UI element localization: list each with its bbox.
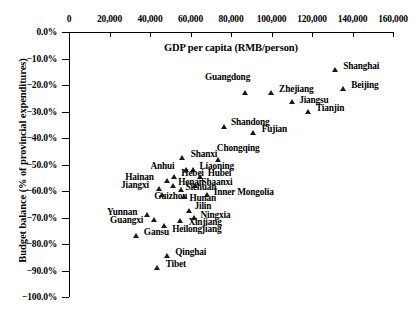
data-point xyxy=(151,217,157,222)
y-tick-label: −50.0% xyxy=(0,160,57,170)
x-axis-title: GDP per capita (RMB/person) xyxy=(69,42,393,53)
y-tick-label: −90.0% xyxy=(0,266,57,276)
y-tick-label: −100.0% xyxy=(0,292,57,302)
y-axis-line xyxy=(69,32,70,297)
scatter-chart: 020,00040,00060,00080,000100,000120,0001… xyxy=(0,0,417,319)
data-point xyxy=(170,183,176,188)
y-tick xyxy=(62,165,69,166)
data-point xyxy=(268,90,274,95)
data-point-label: Chongqing xyxy=(217,144,260,153)
data-point-label: Shanghai xyxy=(343,62,379,71)
data-point-label: Tibet xyxy=(166,260,186,269)
data-point xyxy=(181,194,187,199)
x-tick-label: 80,000 xyxy=(219,14,244,24)
x-tick xyxy=(353,32,354,37)
x-tick-label: 140,000 xyxy=(338,14,367,24)
y-tick-label: −20.0% xyxy=(0,80,57,90)
x-tick xyxy=(191,32,192,37)
y-tick xyxy=(62,85,69,86)
y-tick xyxy=(62,112,69,113)
data-point xyxy=(332,67,338,72)
y-tick xyxy=(62,191,69,192)
x-tick-label: 160,000 xyxy=(378,14,407,24)
data-point xyxy=(177,218,183,223)
data-point-label: Shanxi xyxy=(191,150,218,159)
y-tick-label: −80.0% xyxy=(0,239,57,249)
x-tick-label: 60,000 xyxy=(178,14,203,24)
x-tick xyxy=(231,32,232,37)
data-point xyxy=(186,208,192,213)
data-point-label: Guangdong xyxy=(205,73,250,82)
x-tick-label: 100,000 xyxy=(257,14,286,24)
y-axis-title: Budget balance (% of provincial expendit… xyxy=(17,36,28,286)
data-point-label: Qinghai xyxy=(175,248,206,257)
x-tick xyxy=(110,32,111,37)
data-point-label: Gansu xyxy=(144,228,169,237)
data-point xyxy=(179,155,185,160)
data-point xyxy=(289,99,295,104)
x-tick-label: 20,000 xyxy=(97,14,122,24)
data-point xyxy=(250,130,256,135)
data-point-label: Inner Mongolia xyxy=(214,188,274,197)
y-tick xyxy=(62,138,69,139)
x-tick xyxy=(69,32,70,37)
x-tick xyxy=(272,32,273,37)
y-tick xyxy=(62,32,69,33)
data-point xyxy=(156,186,162,191)
data-point-label: Heilongjiang xyxy=(172,225,221,234)
data-point xyxy=(242,90,248,95)
data-point-label: Sichuan xyxy=(185,183,216,192)
data-point-label: Tianjin xyxy=(316,104,344,113)
data-point xyxy=(144,212,150,217)
y-tick-label: −30.0% xyxy=(0,107,57,117)
x-tick-label: 40,000 xyxy=(138,14,163,24)
data-point-label: Beijing xyxy=(351,81,378,90)
data-point-label: Anhui xyxy=(150,162,174,171)
y-tick xyxy=(62,244,69,245)
y-tick-label: −70.0% xyxy=(0,213,57,223)
y-tick-label: 0.0% xyxy=(0,27,57,37)
data-point xyxy=(204,192,210,197)
y-tick-label: −60.0% xyxy=(0,186,57,196)
y-tick xyxy=(62,218,69,219)
data-point xyxy=(154,265,160,270)
x-tick xyxy=(150,32,151,37)
data-point-label: Guangxi xyxy=(110,216,143,225)
y-tick xyxy=(62,271,69,272)
data-point xyxy=(340,86,346,91)
x-tick xyxy=(312,32,313,37)
y-tick xyxy=(62,297,69,298)
x-tick-label: 120,000 xyxy=(297,14,326,24)
data-point xyxy=(171,174,177,179)
y-tick-label: −40.0% xyxy=(0,133,57,143)
data-point xyxy=(221,124,227,129)
x-tick xyxy=(393,32,394,37)
y-tick xyxy=(62,59,69,60)
data-point xyxy=(133,233,139,238)
data-point xyxy=(305,109,311,114)
y-tick-label: −10.0% xyxy=(0,54,57,64)
data-point-label: Zhejiang xyxy=(279,85,313,94)
data-point-label: Jiangxi xyxy=(121,181,149,190)
data-point-label: Fujian xyxy=(262,125,287,134)
x-tick-label: 0 xyxy=(67,14,72,24)
data-point xyxy=(164,253,170,258)
